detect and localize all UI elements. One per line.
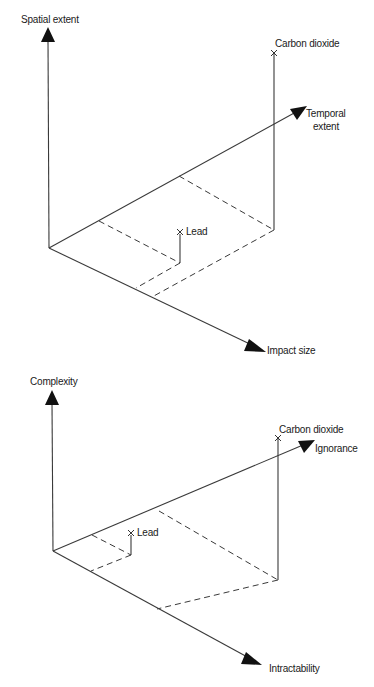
ignorance-label: Ignorance (315, 443, 358, 454)
impact-size-axis (49, 248, 254, 346)
intractability-arrow-icon (241, 652, 262, 665)
complexity-label: Complexity (30, 376, 78, 387)
temporal-extent-label-line2: extent (313, 121, 339, 132)
temporal-extent-axis (49, 112, 296, 248)
carbon-dioxide-intractability-projection (157, 580, 278, 609)
lead-temporal-projection (99, 221, 180, 263)
temporal-extent-arrow-icon (290, 106, 307, 120)
diagram-2-knowledge-problem: Complexity Ignorance Intractability Carb… (30, 376, 358, 674)
complexity-axis (52, 403, 53, 551)
ignorance-axis (53, 445, 303, 551)
spatial-extent-arrow-icon (41, 27, 55, 42)
diagram-1-hazard-extent: Spatial extent Temporal extent Impact si… (21, 14, 346, 356)
carbon-dioxide-impact-projection (152, 230, 274, 297)
temporal-extent-label-line1: Temporal (306, 108, 346, 119)
carbon-dioxide-label: Carbon dioxide (275, 38, 340, 49)
spatial-extent-label: Spatial extent (21, 14, 79, 25)
impact-size-arrow-icon (244, 339, 266, 352)
lead-impact-projection (136, 263, 180, 288)
intractability-axis (53, 551, 251, 659)
lead-label: Lead (137, 527, 158, 538)
carbon-dioxide-label: Carbon dioxide (279, 424, 344, 435)
carbon-dioxide-temporal-projection (179, 176, 274, 230)
spatial-extent-axis (48, 40, 49, 248)
lead-ignorance-projection (92, 535, 131, 555)
intractability-label: Intractability (269, 663, 320, 674)
impact-size-label: Impact size (267, 345, 316, 356)
lead-intractability-projection (91, 555, 131, 571)
carbon-dioxide-ignorance-projection (159, 511, 278, 580)
lead-label: Lead (186, 226, 207, 237)
complexity-arrow-icon (45, 390, 59, 405)
diagram-canvas: Spatial extent Temporal extent Impact si… (0, 0, 374, 687)
